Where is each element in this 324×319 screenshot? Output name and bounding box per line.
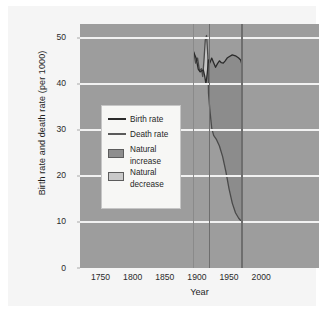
legend-item-label: Naturaldecrease <box>130 166 164 190</box>
legend-key-swatch <box>108 171 126 181</box>
y-axis-tick-label: 50 <box>40 32 66 42</box>
legend-item-label: Naturalincrease <box>130 143 161 167</box>
legend-item: Naturalincrease <box>102 143 180 166</box>
figure: Mexico's birth and death rates, 1920–197… <box>0 0 324 319</box>
legend-item-label: Death rate <box>130 128 168 141</box>
x-axis-tick-label: 2000 <box>241 272 281 282</box>
y-axis-tick-label: 20 <box>40 170 66 180</box>
legend-color-swatch <box>108 172 124 181</box>
legend-key-line <box>108 118 126 120</box>
reference-line <box>241 24 242 268</box>
legend-key-swatch <box>108 148 126 158</box>
gridline <box>80 83 319 85</box>
y-axis-tick-label: 40 <box>40 78 66 88</box>
gridline <box>80 37 319 39</box>
y-axis-tick-label: 10 <box>40 216 66 226</box>
legend-item: Birth rate <box>102 113 180 128</box>
legend-item-label: Birth rate <box>130 113 163 126</box>
reference-line <box>209 24 210 268</box>
chart-legend: Birth rateDeath rateNaturalincreaseNatur… <box>101 105 181 209</box>
y-axis-tick-label: 0 <box>40 263 66 273</box>
legend-key-line <box>108 133 126 135</box>
legend-line-swatch <box>108 133 126 135</box>
legend-item: Death rate <box>102 128 180 143</box>
y-axis-label: Birth rate and death rate (per 1000) <box>37 23 47 223</box>
legend-item: Naturaldecrease <box>102 166 180 189</box>
gridline <box>80 221 319 223</box>
x-axis-label: Year <box>80 287 319 297</box>
legend-item-label-line-1: Natural <box>130 167 164 179</box>
area-natural-increase <box>208 55 242 222</box>
legend-color-swatch <box>108 149 124 158</box>
y-axis-tick-label: 30 <box>40 124 66 134</box>
reference-line <box>193 24 194 268</box>
legend-item-label-line-2: decrease <box>130 179 164 191</box>
figure-canvas: Mexico's birth and death rates, 1920–197… <box>8 6 316 306</box>
legend-line-swatch <box>108 118 126 120</box>
legend-item-label-line-1: Natural <box>130 144 161 156</box>
